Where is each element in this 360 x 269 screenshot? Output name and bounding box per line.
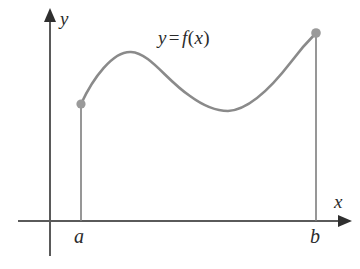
x-tick-label-a: a <box>74 226 84 246</box>
equation-variable: x <box>194 27 203 48</box>
equation-y: y <box>158 27 167 48</box>
endpoint-dot-b <box>311 28 321 38</box>
x-axis-label: x <box>334 192 342 211</box>
equation-equals: = <box>167 27 182 48</box>
y-axis-label: y <box>60 9 68 28</box>
y-axis-arrowhead-icon <box>44 8 56 22</box>
function-graph-figure: y x a b y=f(x) <box>0 0 360 269</box>
function-equation-label: y=f(x) <box>158 28 210 47</box>
endpoint-dot-a <box>76 99 85 108</box>
x-axis-arrowhead-icon <box>338 215 352 227</box>
x-tick-label-b: b <box>310 226 320 246</box>
equation-close-paren: ) <box>203 27 210 48</box>
